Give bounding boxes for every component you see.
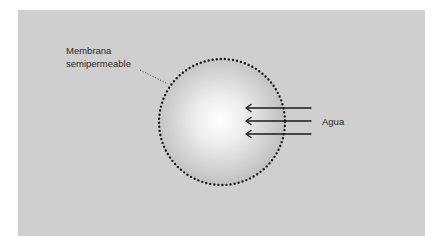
water-label: Agua	[322, 115, 344, 128]
membrane-label-line1: Membrana	[66, 44, 131, 57]
osmosis-diagram	[0, 0, 444, 250]
membrane-leader-line	[140, 70, 168, 84]
membrane-label-line2: semipermeable	[66, 57, 131, 70]
membrane-label: Membrana semipermeable	[66, 44, 131, 70]
